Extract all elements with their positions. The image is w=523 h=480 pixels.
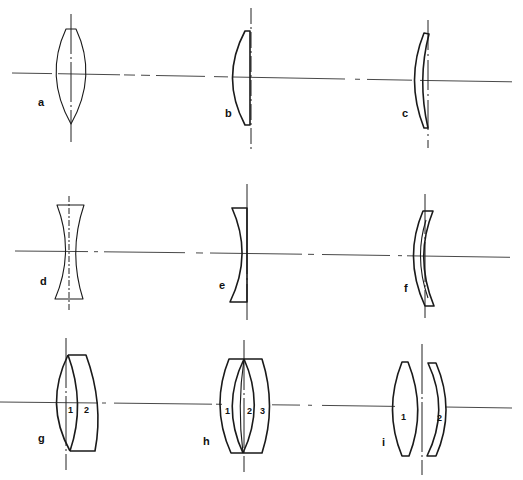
lens-d: d: [40, 196, 84, 312]
lens-b: b: [225, 8, 251, 150]
element-number-h-2: 2: [247, 406, 252, 416]
lens-label-c: c: [402, 107, 408, 119]
lens-g: 1 2 g: [38, 338, 98, 470]
element-number-h-1: 1: [225, 406, 230, 416]
lens-h: 1 2 3 h: [203, 340, 270, 472]
lens-c: c: [402, 20, 429, 148]
element-number-i-2: 2: [437, 413, 442, 423]
element-number-g-2: 2: [84, 405, 89, 415]
lens-label-h: h: [203, 435, 210, 447]
lens-diagram: a b c d e f: [0, 0, 523, 480]
lens-label-f: f: [404, 282, 408, 294]
element-number-i-1: 1: [401, 412, 406, 422]
lens-label-d: d: [40, 275, 47, 287]
lens-a: a: [38, 14, 86, 142]
optical-axis-row-1: [12, 73, 512, 82]
lens-label-b: b: [225, 107, 232, 119]
element-number-h-3: 3: [260, 406, 265, 416]
optical-axis-row-2: [15, 251, 510, 257]
lens-label-g: g: [38, 432, 45, 444]
lens-i: 1 2 i: [382, 344, 446, 475]
element-number-g-1: 1: [68, 405, 73, 415]
lens-label-i: i: [382, 436, 385, 448]
lens-e: e: [219, 184, 247, 320]
lens-label-e: e: [219, 279, 225, 291]
lens-label-a: a: [38, 96, 45, 108]
